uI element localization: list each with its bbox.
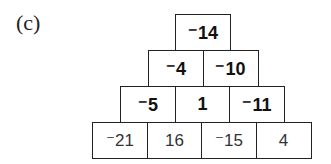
pyramid-cell: ⁻11 [229,86,285,123]
pyramid-row-2: ⁻4 ⁻10 [148,50,259,87]
pyramid-cell: ⁻5 [120,86,176,123]
pyramid-cell: ⁻15 [201,122,257,159]
pyramid-cell: ⁻4 [148,50,204,87]
pyramid-cell: ⁻14 [175,14,231,51]
pyramid-cell: 1 [175,86,231,123]
pyramid-cell: 16 [147,122,203,159]
pyramid-row-3: ⁻5 1 ⁻11 [120,86,285,123]
pyramid-cell: ⁻10 [203,50,259,87]
pyramid-cell: 4 [256,122,312,159]
problem-label: (c) [16,10,40,36]
pyramid-row-4: ⁻21 16 ⁻15 4 [92,122,312,159]
pyramid-row-1: ⁻14 [175,14,231,51]
pyramid-cell: ⁻21 [92,122,148,159]
